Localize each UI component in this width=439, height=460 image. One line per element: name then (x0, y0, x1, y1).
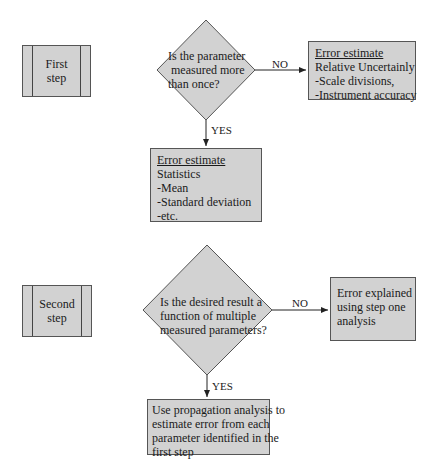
step-box-first: First step (22, 45, 91, 97)
error-explained-box: Error explained using step one analysis (330, 277, 416, 341)
decision-text-1: Is the parameter measured more than once… (168, 49, 246, 91)
error-estimate-relative-box: Error estimate Relative Uncertainly -Sca… (308, 41, 416, 100)
no-label-2: NO (292, 297, 308, 309)
box-title: Error estimate (157, 153, 255, 167)
step-label: step (39, 311, 74, 325)
no-label-1: NO (272, 58, 288, 70)
error-estimate-statistics-box: Error estimate Statistics -Mean -Standar… (150, 148, 262, 222)
propagation-analysis-box: Use propagation analysis to estimate err… (147, 399, 270, 455)
step-label: Second (39, 297, 74, 311)
yes-label-1: YES (211, 124, 232, 136)
step-box-second: Second step (22, 285, 92, 337)
yes-label-2: YES (212, 380, 233, 392)
step-label: step (45, 71, 67, 85)
box-title: Error estimate (315, 46, 409, 60)
step-label: First (45, 57, 67, 71)
decision-text-2: Is the desired result a function of mult… (160, 295, 270, 337)
